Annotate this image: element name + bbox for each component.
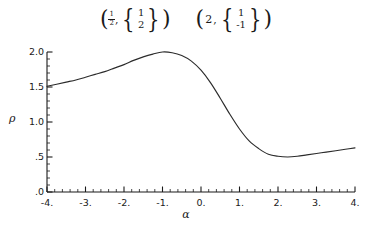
x-tick-label: 4. — [341, 197, 369, 208]
y-tick-label: .0 — [14, 186, 44, 197]
y-tick-label: 1.5 — [14, 81, 44, 92]
x-tick-label: 2. — [264, 197, 292, 208]
cropped-bottom-caption-text: · ·· · ·· ·· · ··· ·· ·· · · — [52, 230, 146, 232]
x-tick-label: 0. — [187, 197, 215, 208]
x-tick-label: 3. — [303, 197, 331, 208]
x-tick-label: -1. — [149, 197, 177, 208]
rho-curve — [47, 52, 355, 157]
y-tick-label: .5 — [14, 151, 44, 162]
x-tick-label: -3. — [72, 197, 100, 208]
x-axis-ticks — [47, 187, 355, 193]
y-axis-ticks — [47, 52, 53, 192]
x-tick-label: -4. — [33, 197, 61, 208]
cropped-bottom-caption: · ·· · ·· ·· · ··· ·· ·· · · — [52, 229, 324, 232]
axes-group — [47, 52, 355, 192]
y-tick-label: 2.0 — [14, 46, 44, 57]
x-tick-label: -2. — [110, 197, 138, 208]
x-axis-label: α — [0, 208, 372, 221]
y-tick-label: 1.0 — [14, 116, 44, 127]
x-tick-label: 1. — [226, 197, 254, 208]
figure-container: · · · · (12,{12}) (2,{1-1}) ρ α -4.-3.-2… — [0, 0, 372, 232]
